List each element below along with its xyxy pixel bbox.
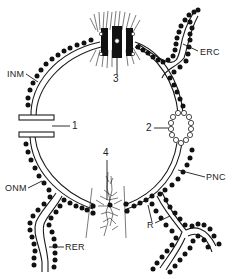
ribosomes-upper-left — [26, 38, 94, 108]
label-rer: RER — [65, 242, 85, 252]
nuclear-envelope — [30, 42, 183, 209]
label-inm: INM — [7, 69, 24, 79]
label-onm: ONM — [5, 183, 27, 193]
label-1: 1 — [72, 121, 78, 131]
label-pnc: PNC — [206, 172, 226, 182]
leader-line-onm — [28, 181, 42, 188]
label-2: 2 — [146, 123, 152, 133]
label-4: 4 — [103, 148, 109, 158]
rer-right — [157, 192, 216, 270]
label-3: 3 — [113, 74, 119, 84]
label-r: R — [147, 220, 154, 230]
ribosomes-lower-right — [132, 148, 222, 275]
pore-complex-4 — [86, 172, 130, 238]
ribosomes-erc — [136, 8, 201, 109]
nuclear-envelope-diagram — [0, 0, 233, 279]
pore-complex-3 — [90, 11, 140, 68]
label-erc: ERC — [200, 47, 220, 57]
envelope-gap-1 — [19, 115, 54, 137]
pore-complex-2 — [168, 110, 193, 145]
